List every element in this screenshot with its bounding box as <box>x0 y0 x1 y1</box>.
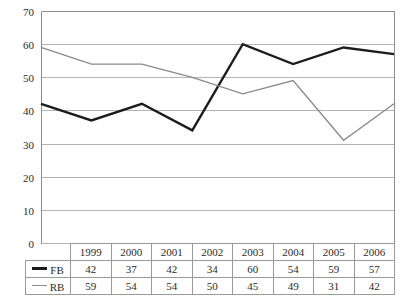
legend-series-label: RB <box>50 281 65 293</box>
series-group <box>41 44 394 140</box>
table-header-cell-2003: 2003 <box>233 244 274 261</box>
table-data-cell: 45 <box>233 278 274 295</box>
axis-lines-group <box>42 12 395 244</box>
y-axis-tick-label: 30 <box>23 139 35 151</box>
table-data-cell: 37 <box>111 261 152 278</box>
series-line-fb <box>41 44 394 130</box>
table-data-cell: 59 <box>71 278 112 295</box>
legend-cell-rb: RB <box>26 278 71 295</box>
table-data-cell: 54 <box>273 261 314 278</box>
table-data-cell: 42 <box>71 261 112 278</box>
table-data-cell: 49 <box>273 278 314 295</box>
legend-line-swatch-icon <box>32 285 47 286</box>
table-data-cell: 31 <box>314 278 355 295</box>
legend-cell-fb: FB <box>26 261 71 278</box>
y-axis-tick-label: 70 <box>23 6 35 18</box>
y-axis-tick-label: 40 <box>23 105 35 117</box>
table-head: 19992000200120022003200420052006 <box>26 244 395 261</box>
y-axis-tick-label: 50 <box>23 72 35 84</box>
series-line-rb <box>41 47 394 140</box>
table-data-cell: 34 <box>192 261 233 278</box>
table-data-cell: 60 <box>233 261 274 278</box>
table-header-cell-2006: 2006 <box>354 244 395 261</box>
table-body: FB4237423460545957RB5954545045493142 <box>26 261 395 295</box>
legend-line-swatch-icon <box>32 267 47 270</box>
chart-figure: 010203040506070 199920002001200220032004… <box>0 0 410 302</box>
table-row: RB5954545045493142 <box>26 278 395 295</box>
table-data-cell: 50 <box>192 278 233 295</box>
table-header-cell-1999: 1999 <box>71 244 112 261</box>
y-axis-tick-label: 60 <box>23 39 35 51</box>
y-axis-tick-label: 20 <box>23 172 35 184</box>
table-data-cell: 54 <box>111 278 152 295</box>
table-data-cell: 57 <box>354 261 395 278</box>
table-header-cell-2000: 2000 <box>111 244 152 261</box>
table-corner-cell <box>26 244 71 261</box>
y-axis-labels-group: 010203040506070 <box>23 6 35 250</box>
data-table-container: 19992000200120022003200420052006 FB42374… <box>25 243 394 295</box>
table-header-cell-2004: 2004 <box>273 244 314 261</box>
y-axis-tick-label: 10 <box>23 205 35 217</box>
table-data-cell: 42 <box>152 261 193 278</box>
table-header-row: 19992000200120022003200420052006 <box>26 244 395 261</box>
data-table: 19992000200120022003200420052006 FB42374… <box>25 243 395 295</box>
legend-series-label: FB <box>50 264 63 276</box>
gridlines-group <box>41 12 394 244</box>
table-data-cell: 42 <box>354 278 395 295</box>
table-data-cell: 54 <box>152 278 193 295</box>
table-header-cell-2005: 2005 <box>314 244 355 261</box>
table-header-cell-2002: 2002 <box>192 244 233 261</box>
table-header-cell-2001: 2001 <box>152 244 193 261</box>
table-row: FB4237423460545957 <box>26 261 395 278</box>
table-data-cell: 59 <box>314 261 355 278</box>
